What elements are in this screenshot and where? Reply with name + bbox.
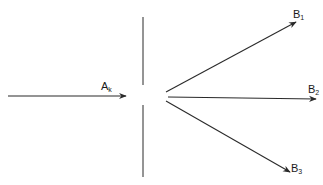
output-arrow-b3 — [166, 101, 290, 172]
incident-label-sub: k — [108, 86, 112, 93]
output-label-sub: 3 — [298, 168, 302, 175]
output-label-sub: 2 — [315, 89, 319, 96]
output-label-sub: 1 — [300, 14, 304, 21]
output-label-b3: B3 — [291, 163, 302, 175]
output-label-b1: B1 — [293, 9, 304, 21]
incident-label: Ak — [101, 81, 112, 93]
output-label-b2: B2 — [308, 84, 319, 96]
output-arrow-b2 — [168, 97, 316, 99]
diagram-canvas — [0, 0, 323, 185]
output-arrow-b1 — [166, 22, 296, 92]
